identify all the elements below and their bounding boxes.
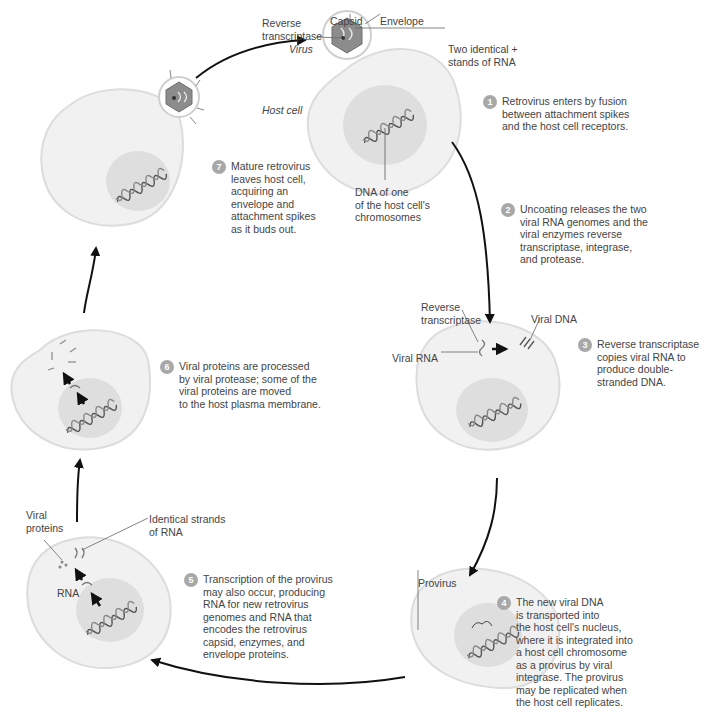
label-dna-of-host: DNA of one of the host cell's chromosome… [355, 186, 430, 224]
step-badge: 3 [578, 338, 592, 352]
label-viral-proteins: Viral proteins [26, 509, 63, 534]
step-text: Viral proteins are processed by viral pr… [179, 360, 321, 410]
cell-step6 [11, 330, 150, 449]
step-1: 1Retrovirus enters by fusion between att… [483, 95, 629, 133]
step-2: 2Uncoating releases the two viral RNA ge… [501, 203, 648, 266]
label-viral-dna: Viral DNA [531, 313, 577, 326]
step-text: Transcription of the provirus may also o… [203, 573, 333, 660]
label-reverse-transcriptase-top: Reverse transcriptase [262, 17, 322, 42]
label-rna: RNA [57, 587, 79, 600]
label-reverse-transcriptase-step3: Reverse transcriptase [421, 301, 481, 326]
label-provirus: Provirus [418, 577, 457, 590]
step-7: 7Mature retrovirus leaves host cell, acq… [212, 160, 316, 235]
step-badge: 7 [212, 160, 226, 174]
cell-step1 [308, 49, 461, 194]
label-identical-strands-rna: Identical strands of RNA [149, 513, 225, 538]
step-text: Reverse transcriptase copies viral RNA t… [597, 338, 699, 388]
label-capsid: Capsid [330, 15, 363, 28]
step-4: 4The new viral DNA is transported into t… [497, 596, 633, 709]
cell-step5 [27, 518, 170, 668]
step-badge: 6 [160, 360, 174, 374]
cell-step3 [416, 310, 559, 450]
step-text: Mature retrovirus leaves host cell, acqu… [231, 160, 316, 235]
step-badge: 1 [483, 95, 497, 109]
step-3: 3Reverse transcriptase copies viral RNA … [578, 338, 699, 388]
label-two-identical-rna: Two identical + stands of RNA [448, 43, 518, 68]
step-text: The new viral DNA is transported into th… [516, 596, 633, 708]
step-6: 6Viral proteins are processed by viral p… [160, 360, 321, 410]
step-badge: 2 [501, 203, 515, 217]
step-text: Retrovirus enters by fusion between atta… [502, 95, 629, 132]
step-5: 5Transcription of the provirus may also … [184, 573, 333, 661]
step-badge: 4 [497, 596, 511, 610]
cell-step7 [41, 70, 204, 226]
label-virus: Virus [289, 43, 313, 56]
label-host-cell: Host cell [262, 104, 302, 117]
label-envelope: Envelope [380, 15, 424, 28]
label-viral-rna: Viral RNA [392, 352, 438, 365]
step-text: Uncoating releases the two viral RNA gen… [520, 203, 648, 265]
step-badge: 5 [184, 573, 198, 587]
